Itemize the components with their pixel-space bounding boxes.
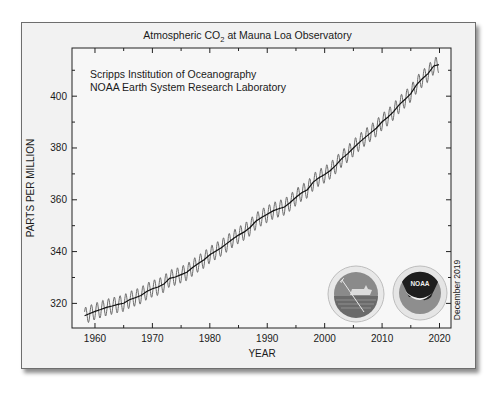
x-tick-label: 1980: [199, 333, 222, 344]
x-tick-label: 2010: [371, 333, 394, 344]
x-tick-label: 1970: [141, 333, 164, 344]
y-tick-label: 320: [50, 298, 67, 309]
y-tick-label: 360: [50, 194, 67, 205]
credit-line-1: Scripps Institution of Oceanography: [90, 68, 257, 80]
x-tick-label: 2000: [314, 333, 337, 344]
y-axis-label: PARTS PER MILLION: [25, 139, 36, 238]
x-tick-label: 2020: [428, 333, 451, 344]
x-axis-label: YEAR: [248, 348, 275, 359]
noaa-logo: NOAA: [393, 266, 447, 320]
y-tick-label: 400: [50, 91, 67, 102]
chart-title: Atmospheric CO2 at Mauna Loa Observatory: [143, 29, 352, 44]
y-tick-label: 380: [50, 142, 67, 153]
x-tick-label: 1960: [84, 333, 107, 344]
co2-chart: Atmospheric CO2 at Mauna Loa Observatory…: [0, 0, 504, 395]
noaa-logo-text: NOAA: [410, 280, 429, 287]
date-note: December 2019: [452, 259, 462, 320]
scripps-logo: [328, 266, 384, 322]
y-tick-label: 340: [50, 246, 67, 257]
x-tick-label: 1990: [256, 333, 279, 344]
credit-line-2: NOAA Earth System Research Laboratory: [90, 81, 287, 93]
